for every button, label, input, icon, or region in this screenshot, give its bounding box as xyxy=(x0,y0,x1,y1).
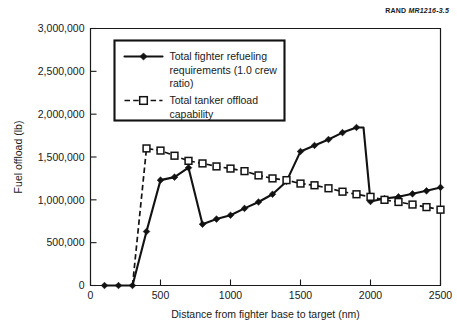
data-point xyxy=(101,282,108,289)
data-point xyxy=(339,188,346,195)
data-series-layer xyxy=(101,124,444,289)
y-tick-label: 0 xyxy=(79,279,85,291)
data-point xyxy=(297,148,304,155)
data-point xyxy=(367,193,374,200)
y-axis-title: Fuel offload (lb) xyxy=(12,121,24,194)
data-point xyxy=(437,184,444,191)
data-point xyxy=(395,199,402,206)
data-point xyxy=(115,282,122,289)
data-point xyxy=(157,147,164,154)
x-axis-tick-labels: 05001000150020002500 xyxy=(88,289,453,301)
x-tick-label: 2500 xyxy=(429,289,453,301)
line-chart: 05001000150020002500 0500,0001,000,0001,… xyxy=(0,0,457,334)
data-point xyxy=(409,191,416,198)
data-point xyxy=(409,201,416,208)
y-tick-label: 2,500,000 xyxy=(38,65,85,77)
source-label: RAND MR1216-3.5 xyxy=(385,7,449,14)
data-point xyxy=(437,206,444,213)
data-point xyxy=(325,185,332,192)
data-point xyxy=(143,228,150,235)
data-point xyxy=(227,212,234,219)
legend-label: Total fighter refueling xyxy=(170,50,268,62)
x-tick-label: 500 xyxy=(152,289,170,301)
data-point xyxy=(143,145,150,152)
legend-label: capability xyxy=(170,108,215,120)
legend-label: requirements (1.0 crew xyxy=(170,64,278,76)
data-point xyxy=(423,204,430,211)
x-tick-label: 0 xyxy=(88,289,94,301)
y-tick-label: 3,000,000 xyxy=(38,22,85,34)
data-point xyxy=(255,172,262,179)
data-point xyxy=(185,157,192,164)
data-point xyxy=(241,205,248,212)
y-axis-tick-labels: 0500,0001,000,0001,500,0002,000,0002,500… xyxy=(38,22,85,291)
data-point xyxy=(423,188,430,195)
data-point xyxy=(325,136,332,143)
x-axis-title: Distance from fighter base to target (nm… xyxy=(171,308,360,320)
series-line xyxy=(105,127,441,285)
data-point xyxy=(213,163,220,170)
y-tick-label: 2,000,000 xyxy=(38,108,85,120)
data-point xyxy=(381,196,388,203)
legend-label: Total tanker offload xyxy=(170,94,259,106)
data-point xyxy=(227,165,234,172)
data-point xyxy=(297,180,304,187)
y-tick-label: 1,500,000 xyxy=(38,151,85,163)
data-point xyxy=(171,152,178,159)
source-label-prefix: RAND xyxy=(385,7,406,14)
x-tick-label: 1000 xyxy=(219,289,243,301)
data-point xyxy=(283,177,290,184)
series-tanker-capability xyxy=(133,145,444,285)
figure-container: RAND MR1216-3.5 05001000150020002500 050… xyxy=(0,0,457,334)
data-point xyxy=(157,177,164,184)
data-point xyxy=(353,124,360,131)
y-tick-label: 500,000 xyxy=(47,236,85,248)
x-axis-ticks xyxy=(91,280,441,286)
y-tick-label: 1,000,000 xyxy=(38,194,85,206)
legend-swatch-marker xyxy=(140,97,148,105)
series-line xyxy=(133,148,441,285)
data-point xyxy=(241,168,248,175)
chart-legend: Total fighter refuelingrequirements (1.0… xyxy=(115,41,285,121)
data-point xyxy=(339,129,346,136)
legend-label: ratio) xyxy=(170,77,194,89)
data-point xyxy=(353,191,360,198)
data-point xyxy=(199,221,206,228)
x-tick-label: 1500 xyxy=(289,289,313,301)
data-point xyxy=(311,182,318,189)
data-point xyxy=(311,142,318,149)
data-point xyxy=(199,160,206,167)
source-label-code: MR1216-3.5 xyxy=(408,7,449,14)
data-point xyxy=(213,216,220,223)
y-axis-ticks xyxy=(91,29,97,286)
data-point xyxy=(269,175,276,182)
x-tick-label: 2000 xyxy=(359,289,383,301)
